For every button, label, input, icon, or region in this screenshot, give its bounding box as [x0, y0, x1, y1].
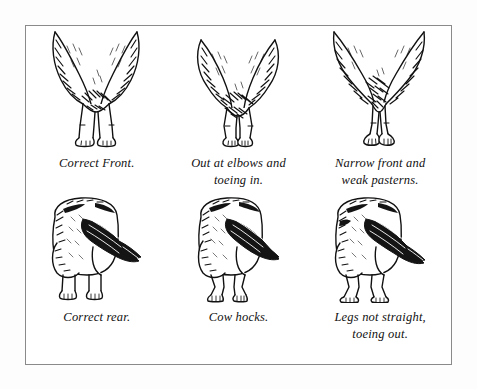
panel-caption: Narrow front and weak pasterns.: [335, 155, 426, 188]
panel-caption: Cow hocks.: [209, 309, 269, 326]
dog-rear-legs-cow-hocks-icon: [177, 195, 299, 303]
panel-front-out-at-elbows: Out at elbows and toeing in.: [168, 26, 310, 195]
panel-caption: Correct Front.: [59, 155, 134, 172]
figure-wrap: [177, 195, 299, 303]
figure-wrap: [37, 26, 157, 148]
figure-wrap: [320, 26, 440, 148]
dog-front-legs-out-at-elbows-icon: [179, 26, 297, 148]
dog-front-legs-correct-icon: [37, 26, 157, 148]
panel-caption: Legs not straight, toeing out.: [334, 309, 425, 342]
panel-caption: Out at elbows and toeing in.: [191, 155, 286, 188]
panel-rear-cow-hocks: Cow hocks.: [168, 195, 310, 364]
illustration-plate: Correct Front.: [0, 0, 477, 389]
panel-rear-toeing-out: Legs not straight, toeing out.: [309, 195, 451, 364]
dog-front-legs-narrow-weak-pasterns-icon: [320, 26, 440, 148]
figure-wrap: [179, 26, 297, 148]
panel-front-correct: Correct Front.: [26, 26, 168, 195]
figure-wrap: [316, 195, 444, 303]
panel-grid: Correct Front.: [26, 26, 451, 364]
dog-rear-legs-toeing-out-icon: [316, 195, 444, 303]
panel-front-narrow: Narrow front and weak pasterns.: [309, 26, 451, 195]
panel-rear-correct: Correct rear.: [26, 195, 168, 364]
figure-wrap: [33, 195, 161, 303]
panel-caption: Correct rear.: [63, 309, 130, 326]
dog-rear-legs-correct-icon: [33, 195, 161, 303]
